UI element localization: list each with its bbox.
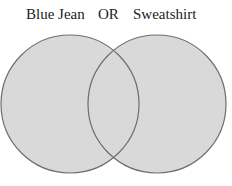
venn-diagram bbox=[0, 0, 232, 186]
set-b-circle bbox=[88, 35, 226, 173]
